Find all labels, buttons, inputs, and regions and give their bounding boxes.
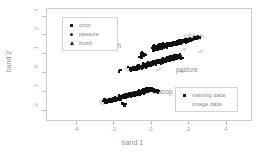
x-tick-label: 2 <box>180 126 196 132</box>
data-point <box>150 65 152 67</box>
data-point <box>196 37 198 39</box>
data-point <box>144 65 146 67</box>
data-point <box>170 42 172 44</box>
data-point <box>199 36 201 38</box>
data-point <box>198 37 200 39</box>
data-point <box>153 89 155 91</box>
data-point <box>180 39 182 41</box>
data-point <box>153 63 155 65</box>
legend-item-image-data: image data <box>180 100 233 108</box>
data-point <box>127 96 129 98</box>
data-point <box>177 54 179 56</box>
data-point <box>152 60 154 62</box>
data-point <box>199 37 201 39</box>
data-point <box>137 66 139 68</box>
data-point <box>187 38 189 40</box>
data-point <box>143 90 145 92</box>
data-point <box>103 103 105 105</box>
data-point <box>151 64 153 66</box>
data-point <box>169 58 171 60</box>
data-point <box>170 58 172 60</box>
data-point <box>155 89 157 91</box>
data-point <box>100 102 102 104</box>
data-point <box>184 36 186 38</box>
data-point <box>132 66 134 68</box>
data-point <box>152 64 154 66</box>
data-point <box>153 89 155 91</box>
data-point <box>114 96 116 98</box>
data-point <box>164 58 166 60</box>
data-point <box>138 68 140 70</box>
data-point <box>145 63 147 65</box>
data-point <box>142 65 144 67</box>
data-point <box>167 43 169 45</box>
legend-item-pasture: pasture <box>67 30 113 38</box>
data-point <box>180 57 182 59</box>
data-point <box>159 68 161 70</box>
data-point <box>122 95 124 97</box>
data-point <box>151 62 153 64</box>
data-point <box>137 92 139 94</box>
data-point <box>109 99 111 101</box>
data-point <box>158 46 160 48</box>
data-point <box>153 48 155 50</box>
data-point <box>168 56 170 58</box>
data-point <box>171 43 173 45</box>
y-tick <box>42 91 46 92</box>
data-point <box>190 40 192 42</box>
data-point <box>157 60 159 62</box>
data-point <box>106 100 108 102</box>
data-point <box>140 55 142 57</box>
data-point <box>183 41 185 43</box>
data-point <box>176 40 178 42</box>
data-point <box>156 60 158 62</box>
data-point <box>140 65 142 67</box>
data-point <box>147 65 149 67</box>
data-point <box>153 91 155 93</box>
data-point <box>130 70 132 72</box>
data-point <box>155 61 157 63</box>
data-point <box>153 44 155 46</box>
data-point <box>188 38 190 40</box>
data-point <box>123 104 125 106</box>
data-point <box>135 66 137 68</box>
legend-item-crop: crop <box>67 21 113 29</box>
data-point <box>137 90 139 92</box>
data-point <box>191 39 193 41</box>
data-point <box>156 47 158 49</box>
data-point <box>191 38 193 40</box>
data-point <box>155 46 157 48</box>
data-point <box>133 91 135 93</box>
data-point <box>111 99 113 101</box>
data-point <box>157 60 159 62</box>
data-point <box>141 67 143 69</box>
data-point <box>150 90 152 92</box>
data-point <box>107 99 109 101</box>
data-point <box>127 69 129 71</box>
data-point <box>138 94 140 96</box>
data-point <box>120 96 122 98</box>
data-point <box>191 38 193 40</box>
data-point <box>158 45 160 47</box>
data-point <box>160 45 162 47</box>
data-point <box>163 58 165 60</box>
data-point <box>152 49 154 51</box>
data-point <box>143 93 145 95</box>
data-point <box>169 45 171 47</box>
data-point <box>120 96 122 98</box>
data-point <box>155 89 157 91</box>
data-point <box>173 43 175 45</box>
data-point <box>163 57 165 59</box>
data-point <box>118 95 120 97</box>
data-point <box>156 60 158 62</box>
data-point <box>146 62 148 64</box>
data-point <box>135 93 137 95</box>
data-point <box>187 41 189 43</box>
data-point <box>144 64 146 66</box>
data-point <box>104 99 106 101</box>
data-point <box>174 58 176 60</box>
data-point <box>157 48 159 50</box>
data-point <box>185 40 187 42</box>
data-point <box>99 101 101 103</box>
data-point <box>119 97 121 99</box>
